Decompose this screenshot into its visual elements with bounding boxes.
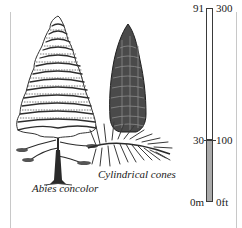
scale-tick-mid-m: 30 bbox=[180, 135, 204, 146]
fir-cone-icon bbox=[88, 24, 172, 166]
height-scale-fill bbox=[207, 139, 212, 201]
height-scale-bar bbox=[206, 8, 213, 202]
scale-tick-max-ft: 300 bbox=[216, 3, 233, 14]
scale-tick-zero-m: 0m bbox=[180, 197, 204, 208]
scale-tick-max-m: 91 bbox=[180, 3, 204, 14]
cone-caption: Cylindrical cones bbox=[98, 168, 176, 180]
species-caption: Abies concolor bbox=[32, 182, 98, 194]
scale-tick-zero-ft: 0ft bbox=[216, 197, 228, 208]
fir-tree-icon bbox=[16, 16, 98, 185]
scale-tick-mid-ft: 100 bbox=[216, 135, 233, 146]
height-scale-marker bbox=[204, 140, 216, 141]
